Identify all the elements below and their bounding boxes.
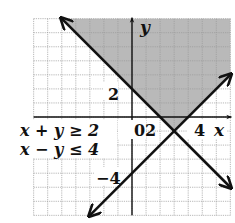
x-tick-4: 4 — [194, 121, 205, 140]
inequality-graph: y x 2 −4 0 2 4 x + y ≥ 2 x − y ≤ 4 — [0, 0, 235, 223]
y-tick-neg4: −4 — [96, 169, 121, 188]
inequality-2: x − y ≤ 4 — [19, 140, 99, 159]
x-tick-2: 2 — [145, 121, 156, 140]
y-tick-2: 2 — [108, 85, 119, 104]
x-axis-label: x — [213, 120, 225, 140]
inequality-1: x + y ≥ 2 — [19, 121, 99, 140]
origin-tick: 0 — [134, 121, 145, 140]
y-axis-label: y — [139, 17, 151, 37]
